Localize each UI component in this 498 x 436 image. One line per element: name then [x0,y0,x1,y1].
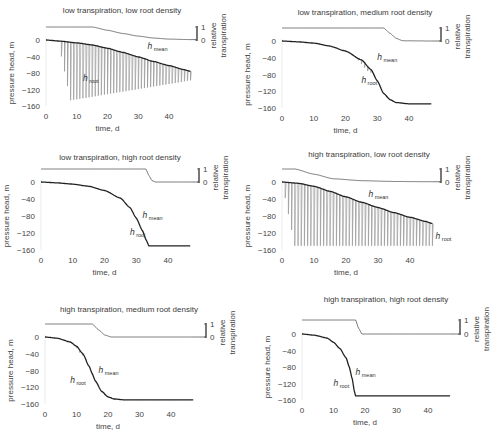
right-tick-label: 0 [203,178,208,187]
x-tick-label: 30 [373,114,382,123]
y-tick-label: −160 [21,400,40,409]
x-tick-label: 0 [300,406,305,415]
y-tick-label: −40 [25,350,39,359]
x-tick-label: 20 [342,256,351,265]
x-tick-label: 0 [280,256,285,265]
x-tick-label: 0 [280,114,285,123]
panel-title: low transpiration, high root density [59,153,180,162]
right-axis-label: relative [453,23,462,49]
x-tick-label: 20 [104,410,113,419]
y-tick-label: −80 [262,71,276,80]
transpiration-line [46,27,191,40]
right-axis-label: relative [472,316,481,342]
transpiration-line [282,169,432,182]
panel-1: low transpiration, low root density0−40−… [7,6,228,133]
y-tick-label: −40 [282,347,296,356]
right-axis-label: relative [453,164,462,190]
panel-2: low transpiration, medium root density0−… [243,8,472,135]
x-tick-label: 40 [167,410,176,419]
x-tick-label: 30 [374,256,383,265]
transpiration-line [41,169,190,182]
y-axis-label: pressure head, m [2,185,11,248]
annotation-h-root: hroot [83,73,99,84]
x-tick-label: 10 [72,112,81,121]
y-tick-label: −40 [21,195,35,204]
right-axis-label: transpiration [463,155,472,199]
x-tick-label: 20 [100,256,109,265]
x-tick-label: 40 [424,406,433,415]
x-tick-label: 30 [134,112,143,121]
annotation-h-mean: hmean [377,52,397,63]
y-tick-label: 0 [31,178,36,187]
y-tick-label: 0 [35,333,40,342]
x-tick-label: 0 [39,256,44,265]
right-tick-label: 0 [201,36,206,45]
right-axis-label: relative [218,319,227,345]
x-tick-label: 10 [329,406,338,415]
y-tick-label: 0 [292,330,297,339]
y-axis-label: pressure head, m [263,336,272,399]
annotation-h-root: hroot [334,378,350,389]
y-tick-label: −160 [278,396,297,405]
right-tick-label: 0 [464,330,469,339]
right-tick-label: 0 [445,37,450,46]
panel-title: high transpiration, low root density [308,150,429,159]
y-tick-label: −120 [22,86,41,95]
x-tick-label: 10 [72,410,81,419]
y-tick-label: −160 [258,104,277,113]
h-root-spikes [77,346,195,400]
panel-3: low transpiration, high root density0−40… [2,153,230,277]
annotation-h-mean: hmean [99,365,119,376]
right-axis-label: transpiration [463,14,472,58]
transpiration-line [302,320,450,334]
y-tick-label: −80 [26,69,40,78]
x-tick-label: 30 [135,410,144,419]
figure: low transpiration, low root density0−40−… [0,0,498,436]
transpiration-line [45,324,193,337]
y-tick-label: −40 [262,54,276,63]
y-tick-label: −160 [22,102,41,111]
x-tick-label: 10 [68,256,77,265]
right-tick-label: 0 [445,178,450,187]
right-tick-label: 1 [210,320,215,329]
h-root-spikes [61,41,191,100]
y-tick-label: 0 [272,37,277,46]
annotation-h-mean: hmean [368,189,388,200]
y-axis-label: pressure head, m [243,43,252,106]
right-axis-label: relative [211,164,220,190]
y-tick-label: −120 [21,383,40,392]
right-axis-label: transpiration [219,13,228,57]
right-axis-label: relative [209,22,218,48]
x-tick-label: 0 [44,112,49,121]
y-tick-label: −80 [282,363,296,372]
panel-4: high transpiration, low root density0−40… [243,150,472,277]
panel-title: low transpiration, low root density [63,6,181,15]
annotation-h-root: hroot [436,231,452,242]
h-mean-line [302,334,450,396]
x-axis-label: time, d [334,268,358,277]
y-tick-label: −80 [25,367,39,376]
annotation-h-mean: hmean [356,367,376,378]
annotation-h-mean: hmean [143,210,163,221]
y-tick-label: 0 [272,178,277,187]
h-root-spikes [285,182,433,246]
panel-title: high transpiration, medium root density [60,305,198,314]
x-tick-label: 30 [392,406,401,415]
right-tick-label: 0 [210,333,215,342]
h-mean-line [41,182,190,246]
panel-title: low transpiration, medium root density [298,8,433,17]
y-tick-label: −80 [262,212,276,221]
x-axis-label: time, d [333,126,357,135]
y-tick-label: −120 [258,87,277,96]
y-tick-label: −120 [258,229,277,238]
right-tick-label: 1 [464,316,469,325]
panel-6: high transpiration, high root density0−4… [263,295,491,427]
x-axis-label: time, d [92,268,116,277]
y-tick-label: −160 [258,246,277,255]
h-mean-line [45,337,193,400]
transpiration-line [282,28,431,41]
annotation-h-root: hroot [130,227,146,238]
x-tick-label: 40 [164,256,173,265]
x-tick-label: 20 [103,112,112,121]
x-tick-label: 20 [361,406,370,415]
